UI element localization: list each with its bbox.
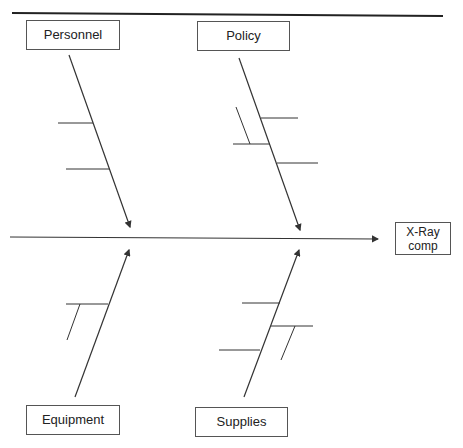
category-box-supplies: Supplies xyxy=(195,407,288,437)
category-box-equipment: Equipment xyxy=(26,405,120,435)
bone-personnel xyxy=(69,55,130,227)
bone-supplies xyxy=(244,250,299,397)
top-rule xyxy=(12,13,443,16)
effect-box: X-Ray comp xyxy=(395,222,451,255)
spine-arrow xyxy=(10,237,378,239)
bone-equipment xyxy=(75,250,129,397)
category-label: Policy xyxy=(226,28,261,44)
effect-label-line2: comp xyxy=(408,239,437,253)
effect-label-line1: X-Ray xyxy=(406,225,439,239)
category-label: Equipment xyxy=(42,412,104,428)
category-box-personnel: Personnel xyxy=(26,20,120,50)
category-label: Personnel xyxy=(44,27,103,43)
category-label: Supplies xyxy=(217,414,267,430)
category-box-policy: Policy xyxy=(197,21,290,51)
fishbone-lines xyxy=(0,0,463,448)
